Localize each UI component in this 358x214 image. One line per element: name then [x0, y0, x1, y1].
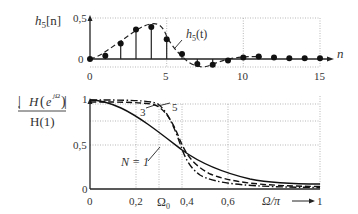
top-grid: [90, 18, 320, 67]
leader-5: [158, 103, 170, 106]
top-annotation-leader: [175, 40, 182, 48]
bottom-ylabel-abs-left: |: [18, 94, 21, 109]
bottom-ylabel-e: e: [46, 95, 52, 109]
top-xtick-15: 15: [314, 70, 326, 82]
bottom-magnitude-plot: | H ( e jΩ ) | H(1) 1 0,5 0 0 0,2 Ω0 0,4…: [18, 92, 323, 211]
top-xtick-5: 5: [163, 70, 169, 82]
top-ylabel: h5[n]: [35, 13, 61, 30]
bottom-xtick-omega0: Ω0: [157, 195, 170, 211]
bottom-ylabel: | H ( e jΩ ) | H(1): [18, 92, 67, 129]
bottom-xlabel: Ω/π: [262, 194, 281, 208]
bottom-xtick-02: 0,2: [129, 195, 143, 207]
bottom-xtick-1: 1: [317, 195, 323, 207]
bottom-ylabel-denominator: H(1): [30, 114, 55, 129]
leader-3: [146, 105, 155, 108]
bottom-axes: [88, 98, 321, 189]
curve-label-5: 5: [172, 101, 178, 113]
bottom-ytick-05: 0,5: [73, 139, 87, 151]
top-xlabel: n: [337, 46, 344, 61]
top-ytick-05: 0,5: [73, 12, 87, 24]
top-ytick-0: 0: [78, 53, 84, 65]
leader-N1: [148, 147, 160, 161]
bottom-xtick-0: 0: [87, 195, 93, 207]
top-xtick-10: 10: [237, 70, 249, 82]
bottom-xtick-06: 0,6: [221, 195, 235, 207]
bottom-ytick-1: 1: [82, 93, 88, 105]
bottom-xtick-04: 0,4: [180, 195, 194, 207]
curve-N1-solid: [90, 100, 320, 184]
bottom-ylabel-abs-right: |: [64, 94, 67, 109]
figure-canvas: h5[n] 0,5 0 0 5 10 15 n h5(t): [0, 0, 358, 214]
bottom-xlabel-arrow: [292, 199, 315, 204]
curve-N3-dashed: [90, 102, 320, 187]
top-stem-plot: h5[n] 0,5 0 0 5 10 15 n h5(t): [35, 12, 344, 82]
curve-label-N1: N = 1: [120, 155, 149, 169]
bottom-ytick-0: 0: [82, 183, 88, 195]
curve-label-3: 3: [140, 106, 146, 118]
bottom-ylabel-paren-l: (: [40, 94, 45, 110]
top-xtick-0: 0: [87, 70, 93, 82]
bottom-ylabel-H: H: [28, 94, 39, 109]
top-annotation-h5t: h5(t): [186, 27, 207, 43]
bottom-ylabel-sup: jΩ: [52, 92, 60, 100]
curve-N5-dashdot: [90, 100, 320, 188]
